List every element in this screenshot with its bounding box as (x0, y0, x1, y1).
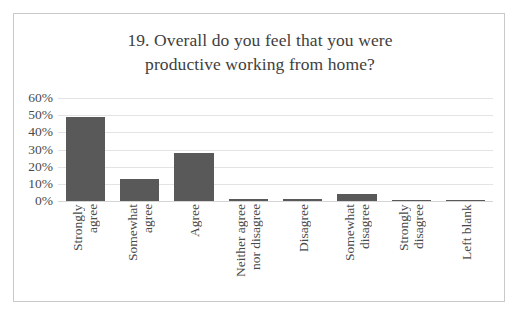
x-tick-label: Stronglydisagree (384, 204, 438, 304)
plot-area: 60%50%40%30%20%10%0% (58, 98, 493, 201)
bar[interactable] (174, 153, 213, 201)
x-tick-label-line: Neither agree (233, 204, 248, 304)
bar-series (58, 98, 493, 201)
x-tick-label-line: Strongly (70, 204, 85, 304)
chart-container: 19. Overall do you feel that you were pr… (13, 13, 505, 302)
x-axis-tick-labels: StronglyagreeSomewhatagreeAgreeNeither a… (58, 204, 493, 304)
bar-slot (221, 98, 275, 201)
x-tick-label-line: Agree (186, 204, 201, 304)
y-tick-label: 60% (28, 90, 53, 106)
y-tick-label: 30% (28, 142, 53, 158)
chart-title: 19. Overall do you feel that you were pr… (52, 28, 468, 76)
bar[interactable] (446, 200, 485, 201)
x-tick-label: Neither agreenor disagree (221, 204, 275, 304)
x-tick-label-line: Left blank (458, 204, 473, 304)
bar-slot (112, 98, 166, 201)
x-tick-label-line: Strongly (396, 204, 411, 304)
x-tick-label-line: Somewhat (125, 204, 140, 304)
x-tick-label-line: nor disagree (248, 204, 263, 304)
chart-title-line-1: 19. Overall do you feel that you were (52, 28, 468, 52)
y-tick-label: 0% (35, 193, 53, 209)
x-tick-label-line: disagree (357, 204, 372, 304)
y-tick-label: 50% (28, 107, 53, 123)
bar[interactable] (392, 200, 431, 201)
bar[interactable] (337, 194, 376, 201)
x-tick-label-line: agree (85, 204, 100, 304)
x-tick-label: Disagree (276, 204, 330, 304)
bar[interactable] (120, 179, 159, 201)
x-tick-label: Left blank (439, 204, 493, 304)
bar-slot (330, 98, 384, 201)
x-tick-label: Somewhatagree (112, 204, 166, 304)
bar-slot (384, 98, 438, 201)
y-tick-label: 10% (28, 176, 53, 192)
bar-slot (167, 98, 221, 201)
x-tick-label: Stronglyagree (58, 204, 112, 304)
x-tick-label-line: agree (140, 204, 155, 304)
bar-slot (276, 98, 330, 201)
bar[interactable] (283, 199, 322, 201)
x-tick-label-line: Somewhat (342, 204, 357, 304)
bar-slot (58, 98, 112, 201)
x-tick-label-line: Disagree (295, 204, 310, 304)
y-tick-label: 40% (28, 124, 53, 140)
x-tick-label-line: disagree (411, 204, 426, 304)
bar[interactable] (66, 117, 105, 201)
y-tick-label: 20% (28, 159, 53, 175)
bar[interactable] (229, 199, 268, 201)
gridline (58, 201, 493, 202)
x-tick-label: Agree (167, 204, 221, 304)
bar-slot (439, 98, 493, 201)
x-tick-label: Somewhatdisagree (330, 204, 384, 304)
chart-title-line-2: productive working from home? (52, 52, 468, 76)
